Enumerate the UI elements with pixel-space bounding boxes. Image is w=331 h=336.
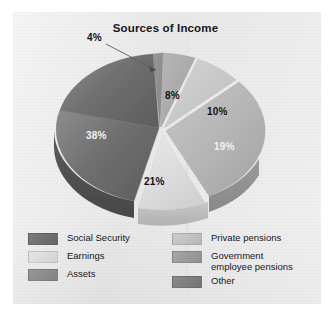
slice-label-private-pensions: 10% bbox=[207, 106, 228, 117]
legend-column-right: Private pensions Governmentemployee pens… bbox=[172, 232, 322, 293]
legend-item-assets[interactable]: Assets bbox=[28, 268, 178, 283]
slice-label-earnings: 21% bbox=[144, 176, 165, 187]
legend-swatch-government-employee-pensions bbox=[172, 251, 202, 263]
slice-label-social-security: 38% bbox=[86, 130, 107, 141]
legend-swatch-earnings bbox=[28, 251, 58, 263]
legend-label-government-line1: Government bbox=[211, 250, 263, 261]
legend-item-other[interactable]: Other bbox=[172, 275, 322, 290]
legend-label-government-employee-pensions: Governmentemployee pensions bbox=[211, 250, 293, 272]
legend-label-government-line2: employee pensions bbox=[211, 262, 293, 273]
legend-item-government-employee-pensions[interactable]: Governmentemployee pensions bbox=[172, 250, 322, 272]
figure-root: Sources of Income bbox=[0, 0, 331, 336]
legend-column-left: Social Security Earnings Assets bbox=[28, 232, 178, 286]
legend-swatch-other bbox=[172, 276, 202, 288]
legend-label-social-security: Social Security bbox=[67, 232, 130, 244]
chart-legend: Social Security Earnings Assets Private … bbox=[13, 232, 321, 304]
legend-item-private-pensions[interactable]: Private pensions bbox=[172, 232, 322, 247]
legend-label-private-pensions: Private pensions bbox=[211, 232, 281, 244]
slice-label-other: 4% bbox=[87, 32, 102, 43]
legend-label-earnings: Earnings bbox=[67, 250, 105, 262]
slice-label-government-employee-pensions: 8% bbox=[165, 90, 180, 101]
legend-item-social-security[interactable]: Social Security bbox=[28, 232, 178, 247]
legend-label-assets: Assets bbox=[67, 268, 96, 280]
legend-swatch-social-security bbox=[28, 233, 58, 245]
slice-label-assets: 19% bbox=[214, 141, 235, 152]
legend-item-earnings[interactable]: Earnings bbox=[28, 250, 178, 265]
legend-swatch-private-pensions bbox=[172, 233, 202, 245]
legend-swatch-assets bbox=[28, 269, 58, 281]
legend-label-other: Other bbox=[211, 275, 235, 287]
